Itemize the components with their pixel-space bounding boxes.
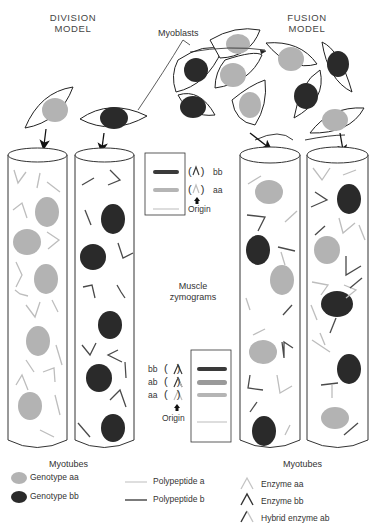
myoblasts-label: Myoblasts (158, 28, 199, 39)
zymo-top-paren-aa: ( ) (188, 183, 205, 195)
zymo-bottom-paren-bb: ( ) (164, 362, 181, 374)
myotube-fusion-1 (240, 147, 300, 448)
zymo-bottom-paren-ab: ( ) (164, 375, 181, 387)
zymo-bottom-origin: Origin (162, 413, 185, 423)
zymo-bottom-label-aa: aa (148, 390, 157, 400)
zymo-bottom-paren-aa: ( ) (164, 388, 181, 400)
legend-enzyme-aa: Enzyme aa (261, 479, 304, 489)
division-model-title: DIVISION MODEL (38, 12, 108, 34)
zymogram-bottom (174, 350, 231, 442)
muscle-zymograms-label: Muscle zymograms (168, 281, 218, 303)
myotube-division-aa (8, 148, 67, 448)
legend-genotype-aa: Genotype aa (30, 472, 79, 482)
zymo-top-origin: Origin (188, 204, 211, 214)
myoblast-aa-left (25, 87, 73, 145)
zymo-bottom-label-ab: ab (148, 377, 157, 387)
legend-polypeptide-b: Polypeptide b (153, 494, 205, 504)
myoblast-bb-left (80, 107, 147, 148)
legend-enzyme-bb: Enzyme bb (261, 496, 304, 506)
fusion-model-title: FUSION MODEL (272, 12, 342, 34)
zymo-top-label-bb: bb (213, 167, 222, 177)
diagram-canvas (0, 0, 377, 529)
zymo-top-paren-bb: ( ) (188, 165, 205, 177)
myotubes-label-right: Myotubes (283, 459, 322, 470)
legend-polypeptide-a: Polypeptide a (153, 476, 205, 486)
zymo-top-label-aa: aa (213, 185, 222, 195)
myoblast-fusion-group (250, 42, 364, 150)
legend-genotype-bb: Genotype bb (30, 491, 79, 501)
myotubes-label-left: Myotubes (49, 459, 88, 470)
diagram-root: DIVISION MODEL FUSION MODEL Myoblasts ( … (0, 0, 377, 529)
zymo-bottom-label-bb: bb (148, 364, 157, 374)
myotube-fusion-2 (307, 147, 368, 448)
legend-hybrid-enzyme-ab: Hybrid enzyme ab (261, 513, 330, 523)
myotube-division-bb (75, 148, 134, 448)
